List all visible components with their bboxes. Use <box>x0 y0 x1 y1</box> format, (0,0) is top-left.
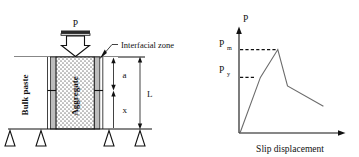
interfacial-zone-left <box>51 57 57 129</box>
peak-load-symbol: P <box>219 39 224 49</box>
load-label: P <box>73 19 78 29</box>
y-axis-label: P <box>243 14 248 24</box>
dimension-a-label: a <box>123 70 127 80</box>
aggregate-label: Aggregate <box>70 76 80 115</box>
yield-load-subscript: y <box>227 70 231 77</box>
y-axis-arrowhead-icon <box>236 27 242 35</box>
figure-canvas: P Interfacial zone Bulk paste Aggregate … <box>0 0 359 157</box>
specimen-diagram: P Interfacial zone Bulk paste Aggregate … <box>5 19 174 146</box>
callout-leader-line <box>100 45 118 59</box>
yield-load-annotation: P y <box>219 65 231 77</box>
load-slip-curve <box>240 50 323 134</box>
dimension-L-arrow-down-icon <box>138 124 142 130</box>
interfacial-zone-label: Interfacial zone <box>121 40 174 50</box>
peak-load-annotation: P m <box>219 39 232 51</box>
x-axis-label: Slip displacement <box>256 144 324 154</box>
interfacial-zone-callout <box>100 45 118 59</box>
support-triangle-3 <box>104 131 114 147</box>
load-slip-chart: P Slip displacement P m P y <box>219 14 346 154</box>
support-group <box>5 131 145 147</box>
support-triangle-4 <box>135 131 145 147</box>
dimension-L-arrow-up-icon <box>138 57 142 63</box>
dimension-L-group <box>138 57 142 129</box>
dimension-L-label: L <box>147 89 153 99</box>
support-triangle-1 <box>5 131 15 147</box>
figure-root: P Interfacial zone Bulk paste Aggregate … <box>0 0 359 157</box>
x-axis-arrowhead-icon <box>338 130 346 136</box>
loading-plate-shadow <box>61 34 90 36</box>
interfacial-zone-right <box>94 57 100 129</box>
dimension-x-label: x <box>123 105 128 115</box>
peak-load-subscript: m <box>227 44 232 51</box>
support-triangle-2 <box>36 131 46 147</box>
bulk-paste-label: Bulk paste <box>20 75 30 116</box>
load-direction-arrow-icon <box>62 36 90 57</box>
loading-plate <box>61 31 90 34</box>
yield-load-symbol: P <box>219 65 224 75</box>
load-arrow-group <box>61 31 90 57</box>
